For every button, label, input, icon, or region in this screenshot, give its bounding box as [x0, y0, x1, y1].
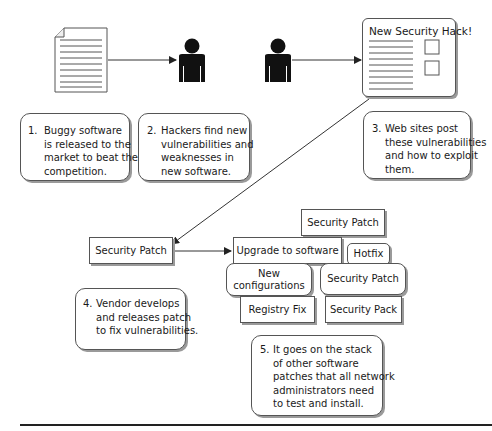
- step-text: Buggy software is released to the market…: [44, 124, 138, 178]
- step-text: Vendor develops and releases patch to fi…: [96, 297, 198, 338]
- stack-security-patch: Security Patch: [320, 263, 406, 295]
- step-number: 3.: [372, 122, 382, 136]
- step-number: 4.: [83, 297, 93, 311]
- step-text: It goes on the stack of other software p…: [273, 343, 395, 411]
- step-number: 2.: [147, 124, 157, 138]
- vendor-security-patch-box: Security Patch: [89, 237, 173, 264]
- document-icon: [54, 27, 108, 93]
- step-3-callout: 3. Web sites post these vulnerabilities …: [363, 111, 471, 179]
- step-4-callout: 4. Vendor develops and releases patch to…: [75, 288, 186, 350]
- step-text: Hackers find new vulnerabilities and wea…: [161, 124, 254, 178]
- stack-new-configurations: New configurations: [226, 263, 312, 296]
- web-page-content-icon: [369, 39, 451, 93]
- hacker-person-icon: [262, 38, 294, 82]
- step-number: 1.: [28, 124, 38, 138]
- stack-upgrade-to-software: Upgrade to software: [233, 237, 342, 264]
- stack-security-patch-top: Security Patch: [301, 209, 385, 236]
- stack-registry-fix: Registry Fix: [240, 296, 315, 323]
- step-text: Web sites post these vulnerabilities and…: [385, 122, 486, 176]
- hacker-person-icon: [176, 38, 208, 82]
- web-page-title: New Security Hack!: [369, 25, 472, 37]
- bottom-divider: [20, 424, 492, 426]
- step-2-callout: 2. Hackers find new vulnerabilities and …: [138, 113, 250, 181]
- step-5-callout: 5. It goes on the stack of other softwar…: [251, 335, 383, 416]
- stack-security-pack: Security Pack: [325, 296, 402, 323]
- stack-hotfix: Hotfix: [347, 243, 390, 265]
- step-number: 5.: [260, 343, 270, 357]
- step-1-callout: 1. Buggy software is released to the mar…: [20, 113, 130, 181]
- web-page-icon: New Security Hack!: [362, 18, 456, 97]
